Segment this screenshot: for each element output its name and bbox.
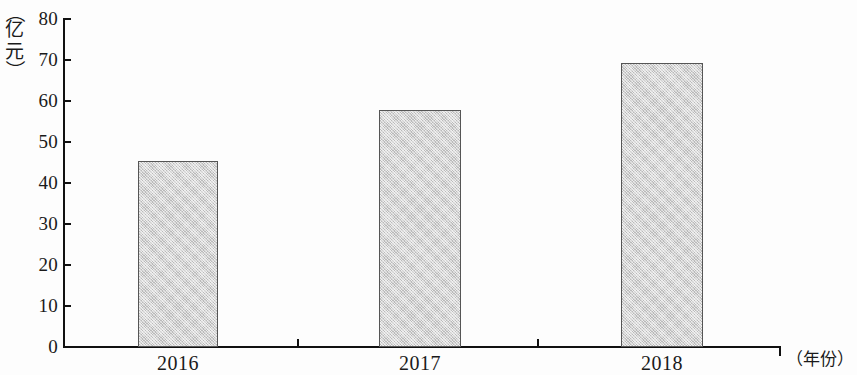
y-axis-unit-open-paren: （	[8, 0, 21, 26]
y-tick-60	[63, 100, 71, 102]
y-tick-label-70-wrap: 70	[22, 50, 58, 69]
y-tick-label-60: 60	[22, 91, 58, 110]
y-tick-label-50-wrap: 50	[22, 132, 58, 151]
y-tick-label-10-wrap: 10	[22, 296, 58, 315]
bar-2018	[621, 63, 703, 347]
y-tick-label-10: 10	[22, 296, 58, 315]
y-tick-20	[63, 264, 71, 266]
x-tick-label-2018: 2018	[612, 352, 712, 374]
x-tick-label-2017: 2017	[370, 352, 470, 374]
x-axis-end-tick	[779, 347, 781, 356]
y-tick-label-0-wrap: 0	[22, 337, 58, 356]
x-tick-label-2016: 2016	[128, 352, 228, 374]
y-tick-label-40: 40	[22, 173, 58, 192]
y-tick-50	[63, 141, 71, 143]
x-axis-separator-1	[297, 339, 299, 347]
y-tick-30	[63, 223, 71, 225]
y-tick-label-60-wrap: 60	[22, 91, 58, 110]
y-tick-label-40-wrap: 40	[22, 173, 58, 192]
y-tick-label-20: 20	[22, 255, 58, 274]
bar-2017	[379, 110, 461, 347]
y-tick-label-70: 70	[22, 50, 58, 69]
y-tick-label-0: 0	[22, 337, 58, 356]
y-axis-unit-close-paren: ）	[8, 57, 21, 83]
y-tick-70	[63, 59, 71, 61]
x-axis-unit-label: （年份）	[786, 350, 854, 370]
bar-2016	[138, 161, 218, 347]
y-tick-label-20-wrap: 20	[22, 255, 58, 274]
y-tick-40	[63, 182, 71, 184]
y-tick-label-30: 30	[22, 214, 58, 233]
y-tick-label-50: 50	[22, 132, 58, 151]
y-tick-label-80: 80	[22, 9, 58, 28]
x-axis-separator-2	[537, 339, 539, 347]
y-tick-label-80-wrap: 80	[22, 9, 58, 28]
y-tick-10	[63, 305, 71, 307]
y-tick-label-30-wrap: 30	[22, 214, 58, 233]
y-tick-80	[63, 18, 71, 20]
y-tick-0	[63, 346, 71, 348]
bar-chart-figure: （ 亿 元 ） 0 10 20 30 40 50 60 70 80	[0, 0, 857, 375]
